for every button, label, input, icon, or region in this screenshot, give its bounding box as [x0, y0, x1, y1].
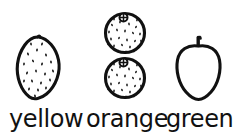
label-orange: orange	[86, 104, 168, 134]
label-green: green	[166, 104, 233, 134]
orange-bottom	[106, 59, 145, 99]
orange-calyx-icon	[120, 14, 128, 22]
orange-top	[106, 14, 145, 54]
orange-icon	[92, 6, 158, 104]
apple-illustration	[168, 34, 230, 104]
worksheet-canvas: yellow orange green	[0, 0, 238, 137]
orange-calyx-icon	[120, 59, 128, 67]
label-yellow: yellow	[9, 104, 83, 134]
lemon-illustration	[8, 34, 80, 104]
lemon-icon	[8, 34, 80, 104]
color-word-labels: yellow orange green	[0, 104, 238, 137]
apple-icon	[168, 34, 230, 104]
orange-illustration	[92, 6, 158, 104]
